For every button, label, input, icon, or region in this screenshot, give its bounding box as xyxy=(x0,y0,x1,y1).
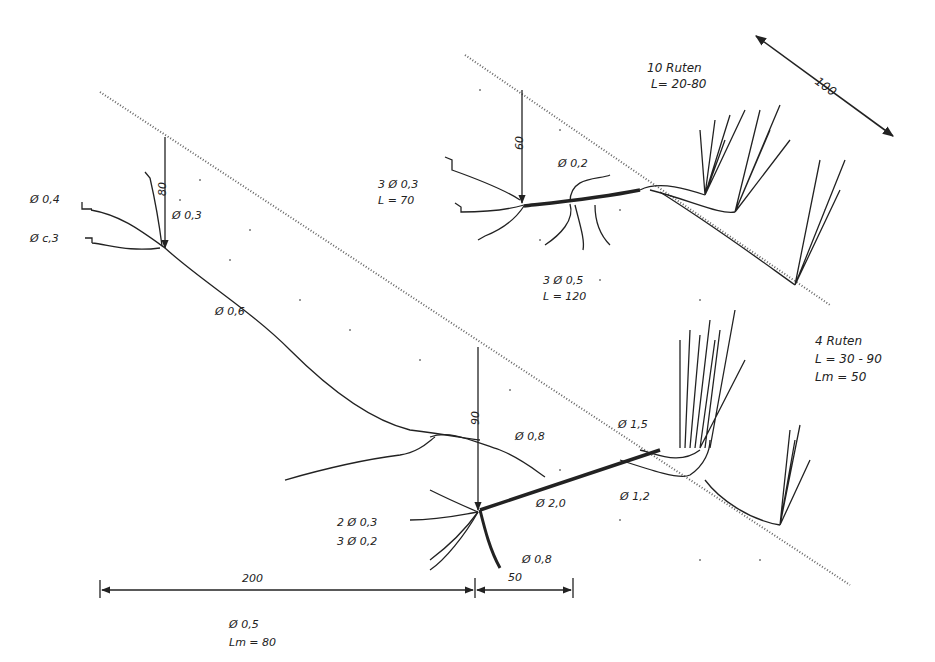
left-root-a: Ø 0,4 xyxy=(30,193,60,206)
upper-plant xyxy=(445,90,845,285)
bottom-note-diameter: Ø 0,5 xyxy=(229,618,259,631)
lower-stem-main: Ø 2,0 xyxy=(536,497,566,510)
lower-depth-dim: 90 xyxy=(469,411,482,425)
upper-branch-diameter: Ø 0,2 xyxy=(558,157,588,170)
bottom-dim-right: 50 xyxy=(508,571,522,584)
bottom-dim-left: 200 xyxy=(242,572,263,585)
lower-shoots-mean: Lm = 50 xyxy=(815,371,866,384)
upper-main-stem: 3 Ø 0,5 xyxy=(543,274,583,287)
lower-roots-a: 2 Ø 0,3 xyxy=(337,516,377,529)
lower-shoots-length: L = 30 - 90 xyxy=(815,353,882,366)
left-root-b: Ø c,3 xyxy=(30,232,59,245)
slope-line-upper xyxy=(465,55,830,305)
lower-branch-upper: Ø 0,8 xyxy=(515,430,545,443)
lower-roots-b: 3 Ø 0,2 xyxy=(337,535,377,548)
lower-stem-lower: Ø 1,2 xyxy=(620,490,650,503)
left-root-c: Ø 0,3 xyxy=(172,209,202,222)
lower-tap-root: Ø 0,8 xyxy=(522,553,552,566)
upper-root-group: 3 Ø 0,3 xyxy=(378,178,418,191)
left-depth-dim: 80 xyxy=(156,182,169,196)
soil-dots xyxy=(179,89,761,561)
upper-main-stem-length: L = 120 xyxy=(543,290,586,303)
left-plant xyxy=(82,137,480,440)
lower-shoots-label: 4 Ruten xyxy=(815,335,862,348)
upper-depth-dim: 60 xyxy=(513,136,526,150)
upper-shoots-label: 10 Ruten xyxy=(647,62,702,75)
root-system-sketch xyxy=(0,0,935,662)
lower-plant xyxy=(285,310,810,570)
lower-stem-upper: Ø 1,5 xyxy=(618,418,648,431)
upper-shoots-length: L= 20-80 xyxy=(651,78,706,91)
bottom-note-length: Lm = 80 xyxy=(229,636,276,649)
bottom-dimensions xyxy=(100,578,573,598)
left-main-root: Ø 0,6 xyxy=(215,305,245,318)
upper-root-group-length: L = 70 xyxy=(378,194,414,207)
